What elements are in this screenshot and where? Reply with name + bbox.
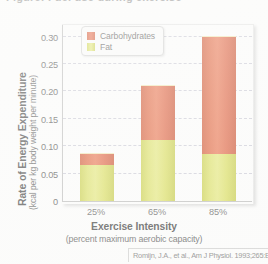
y-tick-label: 0.10 — [41, 142, 58, 152]
y-tick-label: 0.25 — [41, 60, 58, 70]
bar-segment-carbohydrates[interactable] — [202, 36, 236, 155]
y-tick-label: 0.20 — [41, 87, 58, 97]
x-tick-label: 25% — [87, 207, 105, 217]
y-axis-tick-labels: 00.050.100.150.200.250.30 — [30, 22, 58, 202]
x-tick-label: 65% — [148, 207, 166, 217]
bar-segment-fat[interactable] — [80, 165, 114, 201]
y-tick-label: 0 — [53, 197, 58, 207]
bar-segment-carbohydrates[interactable] — [141, 85, 175, 140]
y-tick-label: 0.30 — [41, 33, 58, 43]
y-axis-title-group: Rate of Energy Expenditure (kcal per kg … — [0, 18, 34, 208]
legend-swatch-fat-icon — [87, 43, 95, 51]
legend-item[interactable]: Fat — [87, 41, 155, 52]
y-axis-title: Rate of Energy Expenditure — [16, 72, 28, 206]
x-axis-units: (percent maximum aerobic capacity) — [0, 234, 268, 244]
stacked-bar-chart-figure: Rate of Energy Expenditure (kcal per kg … — [0, 0, 268, 264]
legend-item[interactable]: Carbohydrates — [87, 30, 155, 41]
legend-swatch-carb-icon — [87, 32, 95, 40]
x-tick-label: 85% — [209, 207, 227, 217]
legend-label: Fat — [100, 42, 112, 52]
bar-segment-fat[interactable] — [202, 154, 236, 201]
bar-segment-carbohydrates[interactable] — [80, 153, 114, 165]
y-tick-label: 0.15 — [41, 115, 58, 125]
legend-label: Carbohydrates — [100, 31, 155, 41]
bar-segment-fat[interactable] — [141, 140, 175, 201]
x-axis-title: Exercise Intensity — [0, 221, 268, 232]
chart-legend: CarbohydratesFat — [81, 26, 164, 56]
y-tick-label: 0.05 — [41, 170, 58, 180]
source-citation-box: Romijn, J.A., et al., Am J Physiol. 1993… — [128, 248, 268, 262]
source-citation-text: Romijn, J.A., et al., Am J Physiol. 1993… — [133, 251, 268, 260]
